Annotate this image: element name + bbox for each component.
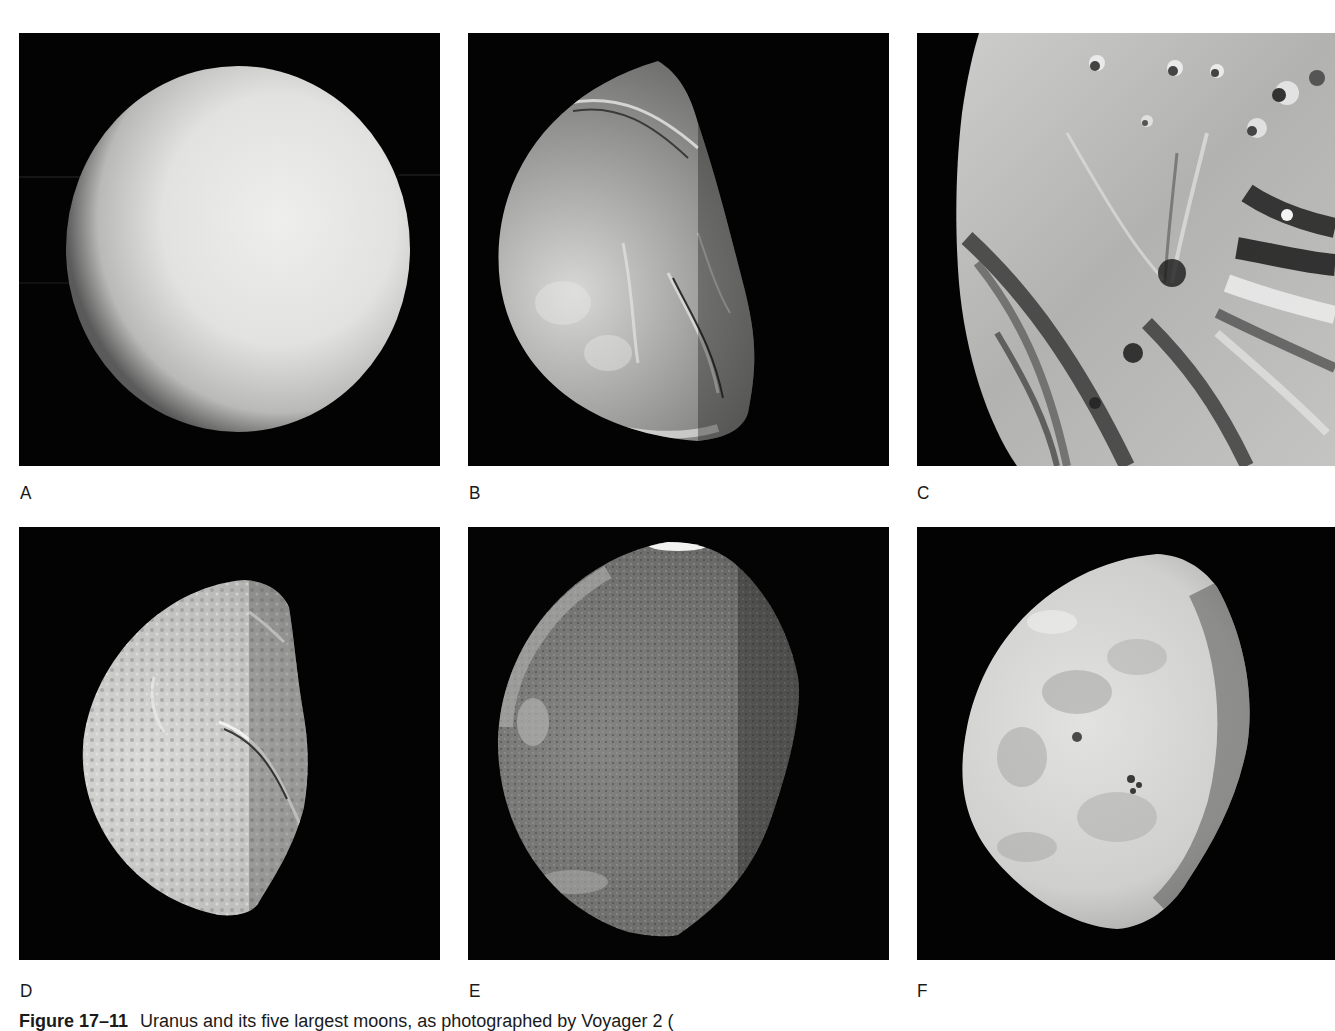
panel-label-f: F (917, 981, 927, 1000)
panel-label-c: C (917, 483, 929, 502)
panel-label-a: A (20, 483, 31, 502)
dark-gibbous-moon-icon (468, 527, 889, 960)
gibbous-moon-icon (468, 33, 889, 466)
figure-number: Figure 17–11 (19, 1011, 128, 1031)
caption-text: Uranus and its five largest moons, as ph… (140, 1011, 673, 1031)
panel-a-planet-image (19, 33, 440, 466)
panel-e-moon-image (468, 527, 889, 960)
panel-label-e: E (469, 981, 480, 1000)
panel-d-moon-image (19, 527, 440, 960)
half-moon-icon (19, 527, 440, 960)
panel-label-d: D (20, 981, 32, 1000)
moon-surface-closeup-icon (917, 33, 1335, 466)
panel-b-moon-image (468, 33, 889, 466)
panel-f-moon-image (917, 527, 1335, 960)
figure-caption: Figure 17–11Uranus and its five largest … (19, 1012, 673, 1030)
planet-disk-icon (19, 33, 440, 466)
panel-label-b: B (469, 483, 480, 502)
mottled-gibbous-moon-icon (917, 527, 1335, 960)
panel-c-moon-closeup-image (917, 33, 1335, 466)
